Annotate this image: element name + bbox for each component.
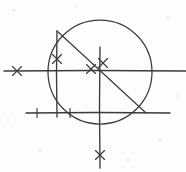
geometry-figure-canvas — [0, 0, 186, 172]
center-vertical-line — [100, 47, 101, 168]
x-mark-on-chord — [87, 65, 96, 74]
left-vertical-line — [57, 31, 58, 117]
diagonal-chord — [57, 31, 146, 113]
geometry-construction-drawing — [0, 0, 186, 172]
lower-horizontal-line — [26, 113, 170, 114]
upper-horizontal-line — [4, 71, 186, 72]
paper-texture-specks — [7, 5, 179, 161]
